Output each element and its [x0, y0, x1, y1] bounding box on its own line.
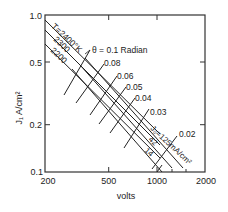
label-theta-0.04: 0.04: [135, 93, 152, 103]
x-tick-500: 500: [101, 176, 116, 186]
label-theta-0.1: θ = 0.1 Radian: [92, 45, 148, 55]
label-theta-0.02: 0.02: [179, 129, 196, 139]
label-theta-0.08: 0.08: [104, 58, 121, 68]
label-theta-0.03: 0.03: [150, 107, 167, 117]
label-theta-0.06: 0.06: [117, 71, 134, 81]
x-tick-200: 200: [40, 176, 55, 186]
y-tick-0.5: 0.5: [29, 58, 42, 68]
label-theta-0.05: 0.05: [126, 82, 143, 92]
line-theta-0.06: [90, 76, 117, 115]
line-theta-0.08: [76, 64, 104, 103]
x-tick-1000: 1000: [147, 176, 167, 186]
y-axis-label: J₁ A/cm²: [14, 91, 24, 124]
y-tick-0.2: 0.2: [29, 120, 42, 130]
line-j125: [85, 58, 183, 168]
x-axis-label: volts: [117, 191, 136, 201]
y-tick-1.0: 1.0: [29, 11, 42, 21]
line-theta-0.05: [99, 87, 126, 124]
chart: 1.0 0.5 0.2 0.1 200 500 1000 2000 volts …: [0, 0, 228, 212]
x-tick-2000: 2000: [196, 176, 216, 186]
